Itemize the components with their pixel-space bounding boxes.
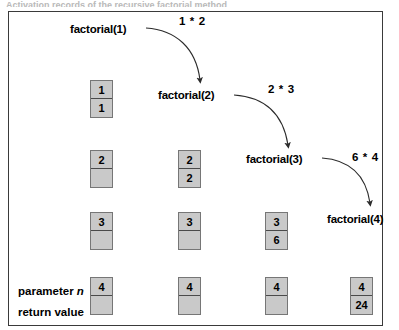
record-return-cell: 6 [266,231,287,249]
activation-record: 3 [178,212,201,250]
record-parameter-cell: 2 [91,151,112,169]
activation-record: 4 [265,277,288,315]
activation-record: 2 [90,150,113,188]
legend-text: return value [18,306,84,318]
diagram-canvas: Activation records of the recursive fact… [0,0,399,330]
record-parameter-cell: 4 [91,278,112,296]
figure-caption: Activation records of the recursive fact… [6,0,394,7]
activation-record: 4 [178,277,201,315]
record-return-cell [179,231,200,249]
call-label-1: factorial(1) [70,22,126,36]
multiplication-label-3: 6 * 4 [352,150,379,164]
legend-return-value: return value [18,305,84,319]
multiplication-label-2: 2 * 3 [268,82,295,96]
activation-record: 4 [90,277,113,315]
record-parameter-cell: 4 [179,278,200,296]
legend-parameter-n: parameter n [18,284,84,298]
call-label-3: factorial(3) [246,152,302,166]
activation-record: 22 [178,150,201,188]
record-parameter-cell: 4 [351,278,372,296]
legend-text: parameter [18,285,77,297]
activation-record: 424 [350,277,373,315]
record-parameter-cell: 4 [266,278,287,296]
record-return-cell [91,231,112,249]
record-return-cell: 2 [179,169,200,187]
record-parameter-cell: 3 [91,213,112,231]
activation-record: 36 [265,212,288,250]
activation-record: 11 [90,80,113,118]
record-return-cell: 1 [91,99,112,117]
multiplication-label-1: 1 * 2 [179,14,206,28]
record-return-cell [179,296,200,314]
call-label-2: factorial(2) [158,88,214,102]
record-return-cell: 24 [351,296,372,314]
record-parameter-cell: 3 [266,213,287,231]
record-return-cell [266,296,287,314]
legend-variable: n [77,285,84,297]
record-parameter-cell: 1 [91,81,112,99]
activation-record: 3 [90,212,113,250]
record-return-cell [91,296,112,314]
record-parameter-cell: 3 [179,213,200,231]
record-return-cell [91,169,112,187]
call-label-4: factorial(4) [327,212,383,226]
record-parameter-cell: 2 [179,151,200,169]
